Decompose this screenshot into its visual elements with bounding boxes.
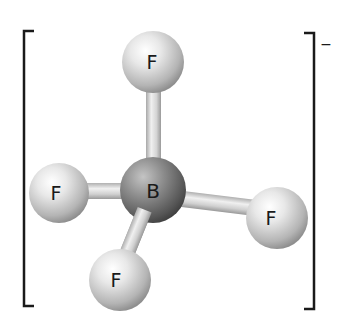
atom-label: F [147, 51, 158, 73]
atom-fluorine-right: F [246, 187, 308, 249]
atom-label: F [266, 207, 277, 229]
left-bracket [24, 31, 34, 306]
atom-label: F [111, 269, 122, 291]
atom-label: F [51, 182, 62, 204]
atom-fluorine-left: F [29, 163, 89, 223]
atom-label: B [146, 179, 160, 203]
bond-top [146, 88, 161, 164]
molecule-diagram: − F B F [0, 0, 346, 328]
atom-fluorine-bottom: F [89, 249, 151, 311]
bond-right [177, 191, 258, 217]
charge-label: − [320, 36, 332, 52]
atom-fluorine-top: F [122, 31, 184, 93]
molecule-svg: − F B F [0, 0, 346, 328]
right-bracket [304, 33, 314, 309]
atom-boron-center: B [120, 157, 186, 223]
